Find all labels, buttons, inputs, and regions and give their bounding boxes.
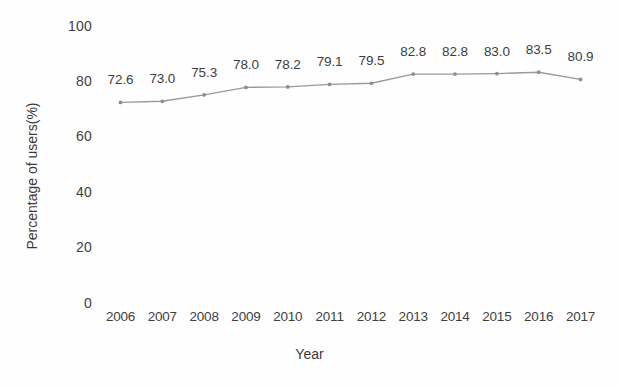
x-axis-tick-label: 2008 (190, 309, 219, 324)
x-axis-tick-label: 2009 (231, 309, 260, 324)
data-point-marker (202, 93, 206, 97)
x-axis-tick-label: 2016 (524, 309, 553, 324)
data-point-label: 83.0 (484, 44, 510, 59)
data-point-label: 82.8 (400, 44, 426, 59)
x-axis-tick-label: 2010 (273, 309, 302, 324)
x-axis-tick-labels: 2006200720082009201020112012201320142015… (0, 309, 619, 329)
data-point-label: 78.2 (275, 57, 301, 72)
x-axis-tick-label: 2006 (106, 309, 135, 324)
data-point-marker (411, 72, 415, 76)
data-point-marker (244, 86, 248, 90)
data-point-label: 82.8 (442, 44, 468, 59)
data-point-label: 75.3 (191, 65, 217, 80)
x-axis-tick-label: 2011 (315, 309, 343, 324)
data-point-label: 79.1 (317, 54, 343, 69)
data-point-marker (453, 72, 457, 76)
data-point-marker (537, 70, 541, 74)
x-axis-title: Year (0, 346, 619, 362)
x-axis-tick-label: 2007 (148, 309, 177, 324)
data-point-label: 79.5 (358, 53, 384, 68)
data-point-marker (370, 81, 374, 85)
data-point-label: 72.6 (108, 72, 134, 87)
series-line-svg (0, 0, 619, 388)
x-axis-tick-label: 2013 (399, 309, 428, 324)
data-point-label: 83.5 (526, 42, 552, 57)
data-point-marker (119, 101, 123, 105)
series-markers (119, 70, 583, 104)
x-axis-tick-label: 2014 (440, 309, 469, 324)
line-chart-figure: 020406080100 Percentage of users(%) 72.6… (0, 0, 619, 388)
data-point-marker (495, 72, 499, 76)
x-axis-tick-label: 2017 (566, 309, 595, 324)
data-point-marker (160, 99, 164, 103)
data-point-label: 80.9 (568, 49, 594, 64)
series-line (121, 72, 581, 102)
data-point-label: 78.0 (233, 57, 259, 72)
x-axis-tick-label: 2012 (357, 309, 386, 324)
data-point-marker (286, 85, 290, 89)
x-axis-tick-label: 2015 (482, 309, 511, 324)
data-point-label: 73.0 (149, 71, 175, 86)
plot-area: 72.673.075.378.078.279.179.582.882.883.0… (0, 0, 619, 388)
data-point-marker (328, 83, 332, 87)
data-point-marker (579, 78, 583, 82)
